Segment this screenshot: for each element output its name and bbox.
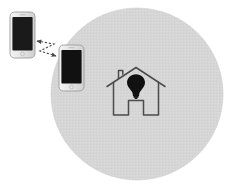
diagram-svg: [0, 0, 237, 188]
handover-arrow: [37, 41, 56, 56]
phone-inside-screen: [61, 50, 81, 84]
phone-inside-earpiece-icon: [68, 47, 74, 48]
phone-outside-screen: [12, 17, 32, 51]
phone-outside-earpiece-icon: [19, 14, 25, 15]
phone-outside[interactable]: [10, 12, 35, 58]
phone-inside[interactable]: [59, 45, 84, 91]
diagram-canvas: Smart home wireless coverage diagram Cov…: [0, 0, 237, 188]
